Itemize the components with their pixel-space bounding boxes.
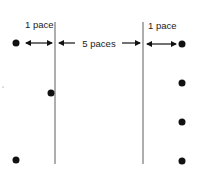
left-spacing-label: 1 pace — [25, 19, 54, 30]
center-spacing-label: 5 paces — [82, 38, 116, 49]
right-dot — [179, 119, 186, 126]
right-dot — [179, 80, 186, 87]
right-dot — [179, 41, 186, 48]
speck-mark — [2, 86, 3, 87]
right-spacing-label: 1 pace — [148, 20, 177, 31]
spacing-diagram: 1 pace 1 pace 5 paces — [0, 0, 197, 180]
left-dot — [13, 40, 20, 47]
left-dot — [48, 90, 55, 97]
right-dot — [179, 158, 186, 165]
left-dot — [13, 157, 20, 164]
